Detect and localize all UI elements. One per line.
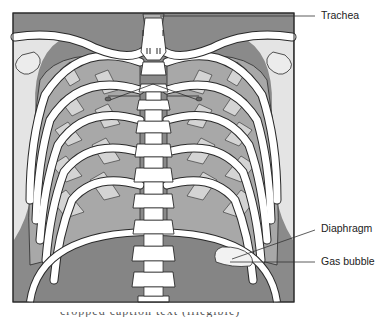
- trachea-label: Trachea: [321, 9, 359, 21]
- gas-bubble-label: Gas bubble: [321, 255, 375, 267]
- diaphragm-label: Diaphragm: [321, 222, 372, 234]
- ribcage-illustration: [0, 0, 382, 317]
- cropped-caption: cropped caption text (illegible): [60, 312, 360, 317]
